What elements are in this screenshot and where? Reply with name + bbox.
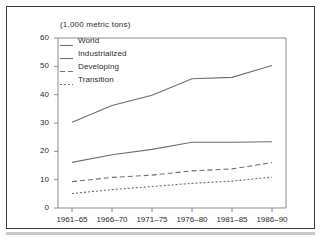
x-axis-tick-label: 1986–90 <box>250 215 294 224</box>
legend-item-transition[interactable]: Transition <box>60 73 127 86</box>
legend-swatch-industrialized <box>60 49 73 58</box>
y-axis-tick-label: 0 <box>27 203 49 212</box>
legend-label: Developing <box>78 62 119 71</box>
legend-label: Transition <box>78 75 114 84</box>
series-line-developing <box>72 163 272 182</box>
x-axis-tick-label: 1971–75 <box>130 215 174 224</box>
legend-item-developing[interactable]: Developing <box>60 60 127 73</box>
legend-item-world[interactable]: World <box>60 34 127 47</box>
series-line-transition <box>72 177 272 193</box>
x-axis-tick-label: 1961–65 <box>50 215 94 224</box>
y-axis-tick-label: 40 <box>27 90 49 99</box>
legend-label: Industrialized <box>78 49 127 58</box>
legend-swatch-transition <box>60 75 73 84</box>
chart-legend: WorldIndustrializedDevelopingTransition <box>60 34 127 86</box>
legend-label: World <box>78 36 99 45</box>
y-axis-tick-label: 10 <box>27 175 49 184</box>
x-axis-tick-label: 1966–70 <box>90 215 134 224</box>
y-axis-tick-label: 30 <box>27 118 49 127</box>
y-axis-tick-label: 50 <box>27 61 49 70</box>
y-axis-tick-label: 20 <box>27 146 49 155</box>
y-axis-tick-label: 60 <box>27 33 49 42</box>
series-line-industrialized <box>72 142 272 163</box>
legend-swatch-world <box>60 36 73 45</box>
legend-item-industrialized[interactable]: Industrialized <box>60 47 127 60</box>
x-axis-tick-label: 1976–80 <box>170 215 214 224</box>
x-axis-tick-label: 1981–85 <box>210 215 254 224</box>
chart-figure: (1,000 metric tons) 0102030405060 1961–6… <box>0 0 321 240</box>
legend-swatch-developing <box>60 62 73 71</box>
